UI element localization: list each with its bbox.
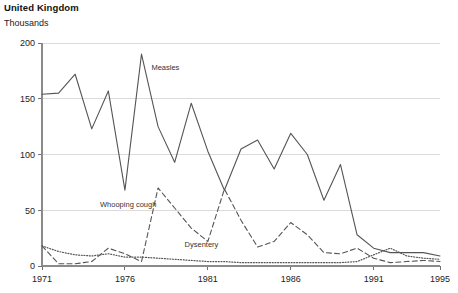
line-chart: 050100150200 197119761981198619911995 Me… [0,0,458,293]
x-tick-label-1976: 1976 [115,274,135,284]
x-axis-ticks-group: 197119761981198619911995 [32,266,450,284]
x-tick-label-1991: 1991 [364,274,384,284]
y-tick-label-200: 200 [20,38,35,48]
series-label-dysentery: Dysentery [185,240,219,249]
chart-page: United Kingdom Thousands 050100150200 19… [0,0,458,293]
x-tick-label-1981: 1981 [198,274,218,284]
data-series-group [42,54,440,264]
series-label-measles: Measles [151,63,179,72]
x-tick-label-1971: 1971 [32,274,52,284]
x-tick-label-1995: 1995 [430,274,450,284]
series-line-measles [42,54,440,256]
y-tick-label-100: 100 [20,150,35,160]
y-tick-label-50: 50 [25,206,35,216]
y-tick-label-0: 0 [30,261,35,271]
x-tick-label-1986: 1986 [281,274,301,284]
y-axis-ticks-group: 050100150200 [20,38,42,271]
series-annotations-group: MeaslesWhooping coughDysentery [100,63,219,249]
y-tick-label-150: 150 [20,94,35,104]
series-label-whooping-cough: Whooping cough [100,200,156,209]
gridlines-group [42,43,440,210]
